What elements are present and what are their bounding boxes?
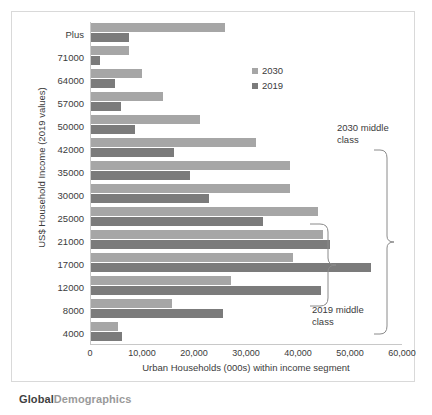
bar-2030 — [91, 23, 225, 32]
bar-2019 — [91, 33, 129, 42]
x-axis-tick-label: 60,000 — [388, 348, 416, 358]
y-axis-title: US$ Household Income (2019 values) — [36, 73, 47, 263]
annotation-2030-line1: 2030 middle — [337, 122, 407, 134]
y-axis-tick-label: 8000 — [63, 304, 84, 315]
y-axis-tick-label: 12000 — [58, 281, 84, 292]
bar-2030 — [91, 69, 142, 78]
legend: 2030 2019 — [252, 65, 283, 95]
chart-row: Plus — [90, 22, 402, 45]
bar-2019 — [91, 217, 263, 226]
bar-2019 — [91, 102, 121, 111]
legend-label-2019: 2019 — [262, 80, 283, 91]
watermark-light: Demographics — [54, 393, 132, 405]
bar-2030 — [91, 161, 290, 170]
y-axis-tick-label: 25000 — [58, 212, 84, 223]
y-axis-tick-label: 21000 — [58, 235, 84, 246]
y-axis-tick-label: 17000 — [58, 258, 84, 269]
bar-2019 — [91, 309, 223, 318]
bar-2030 — [91, 184, 290, 193]
y-axis-tick-label: 35000 — [58, 166, 84, 177]
bar-2019 — [91, 194, 209, 203]
bar-2019 — [91, 148, 174, 157]
legend-item-2030: 2030 — [252, 65, 283, 76]
legend-item-2019: 2019 — [252, 80, 283, 91]
chart-card: US$ Household Income (2019 values) Plus7… — [11, 11, 415, 382]
x-axis-line — [90, 344, 402, 345]
x-axis-tick-label: 40,000 — [284, 348, 312, 358]
bar-2030 — [91, 207, 318, 216]
y-axis-tick-label: 42000 — [58, 143, 84, 154]
watermark-bold: Global — [19, 393, 54, 405]
bar-2019 — [91, 125, 135, 134]
x-axis-title: Urban Households (000s) within income se… — [90, 362, 402, 373]
y-axis-tick-label: 4000 — [63, 327, 84, 338]
bar-2030 — [91, 230, 323, 239]
bar-2019 — [91, 332, 122, 341]
chart-row: 57000 — [90, 91, 402, 114]
bar-2030 — [91, 138, 256, 147]
bar-2030 — [91, 115, 200, 124]
bar-2030 — [91, 299, 172, 308]
bar-2030 — [91, 46, 129, 55]
bar-2019 — [91, 171, 190, 180]
bar-2019 — [91, 286, 321, 295]
brace-2019-middle-class — [300, 220, 360, 310]
chart-row: 64000 — [90, 68, 402, 91]
bar-2019 — [91, 240, 330, 249]
y-axis-tick-label: 57000 — [58, 97, 84, 108]
bar-2030 — [91, 276, 231, 285]
watermark: GlobalDemographics — [19, 393, 131, 405]
bar-2030 — [91, 322, 118, 331]
bar-2030 — [91, 92, 163, 101]
bar-2030 — [91, 253, 293, 262]
x-axis-tick-label: 30,000 — [232, 348, 260, 358]
y-axis-tick-label: 64000 — [58, 74, 84, 85]
legend-swatch-2019 — [252, 83, 258, 89]
bar-2019 — [91, 79, 115, 88]
legend-label-2030: 2030 — [262, 65, 283, 76]
y-axis-tick-label: 71000 — [58, 51, 84, 62]
y-axis-tick-label: 50000 — [58, 120, 84, 131]
y-axis-tick-label: 30000 — [58, 189, 84, 200]
chart-row: 71000 — [90, 45, 402, 68]
y-axis-tick-label: Plus — [66, 28, 84, 39]
bar-2019 — [91, 56, 100, 65]
x-axis-tick-label: 50,000 — [336, 348, 364, 358]
x-axis-tick-label: 10,000 — [128, 348, 156, 358]
x-axis-tick-label: 0 — [87, 348, 92, 358]
x-axis-tick-label: 20,000 — [180, 348, 208, 358]
legend-swatch-2030 — [252, 68, 258, 74]
